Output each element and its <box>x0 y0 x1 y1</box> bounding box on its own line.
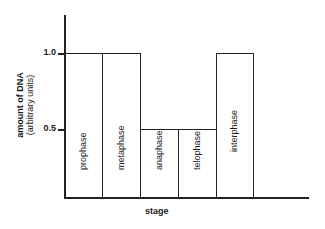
y-tick-1 <box>58 53 64 55</box>
bar-label: anaphase <box>154 130 164 170</box>
y-axis-label: amount of DNA (arbitrary units) <box>15 50 35 160</box>
x-axis-label: stage <box>145 206 169 216</box>
y-axis-title: amount of DNA <box>15 50 25 160</box>
bar-label: prophase <box>78 132 88 170</box>
bar-label: telophase <box>192 131 202 170</box>
y-tick-05 <box>58 129 64 131</box>
bar-telophase: telophase <box>178 129 217 198</box>
bar-label: metaphase <box>116 125 126 170</box>
bar-label: interphase <box>229 110 239 152</box>
bar-metaphase: metaphase <box>102 53 141 198</box>
y-axis-subtitle: (arbitrary units) <box>25 50 35 160</box>
bar-prophase: prophase <box>65 53 103 198</box>
bar-interphase: interphase <box>216 53 254 198</box>
bar-anaphase: anaphase <box>140 129 179 198</box>
